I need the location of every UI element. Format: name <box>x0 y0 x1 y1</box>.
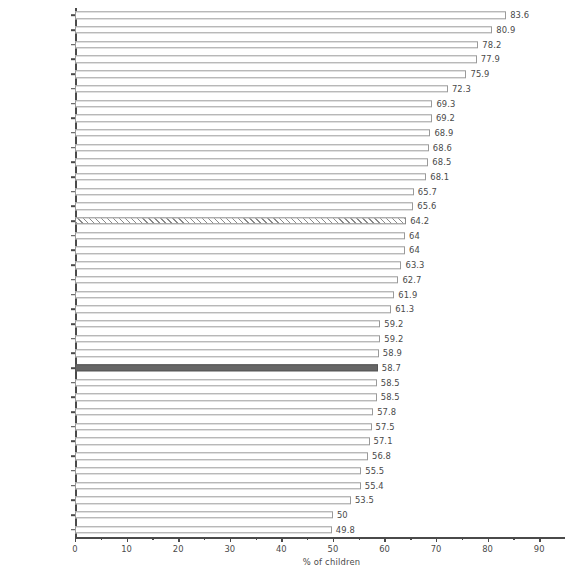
chart-row: Estonia57.1 <box>75 434 565 449</box>
x-axis-minor-tick <box>462 537 463 540</box>
value-label: 55.5 <box>365 466 384 476</box>
value-label: 83.6 <box>510 10 529 20</box>
x-axis-tick-label: 90 <box>534 544 545 554</box>
value-label: 56.8 <box>372 451 391 461</box>
value-label: 80.9 <box>496 25 515 35</box>
chart-row: Switzerland63.3 <box>75 258 565 273</box>
value-label: 78.2 <box>482 40 501 50</box>
value-label: 58.5 <box>381 392 400 402</box>
value-label: 64 <box>409 231 420 241</box>
chart-row: Greenland68.1 <box>75 170 565 185</box>
chart-row: Macedonia80.9 <box>75 23 565 38</box>
chart-row: Ukraine68.9 <box>75 126 565 141</box>
value-label: 69.3 <box>436 99 455 109</box>
bar <box>75 188 414 195</box>
value-label: 75.9 <box>470 69 489 79</box>
x-axis-minor-tick <box>513 537 514 540</box>
bar <box>75 115 432 122</box>
bar <box>75 232 405 239</box>
x-axis-tick-label: 0 <box>72 544 77 554</box>
bar <box>75 70 466 77</box>
bar <box>75 394 377 401</box>
bar <box>75 173 426 180</box>
chart-row: France68.5 <box>75 155 565 170</box>
bar <box>75 306 391 313</box>
value-label: 58.7 <box>382 363 401 373</box>
chart-row: Greece57.8 <box>75 405 565 420</box>
bar <box>75 26 492 33</box>
chart-row: Austria58.5 <box>75 390 565 405</box>
x-axis-tick <box>281 537 282 542</box>
value-label: 63.3 <box>405 260 424 270</box>
chart-row: Canada58.5 <box>75 375 565 390</box>
chart-row: Scotland64 <box>75 228 565 243</box>
x-axis-tick-label: 60 <box>379 544 390 554</box>
bar <box>75 408 373 415</box>
chart-row: England64 <box>75 243 565 258</box>
chart-row: Russia68.6 <box>75 140 565 155</box>
bar <box>75 497 351 504</box>
x-axis-tick-label: 20 <box>173 544 184 554</box>
bar <box>75 423 372 430</box>
value-label: 57.1 <box>374 436 393 446</box>
value-label: 68.1 <box>430 172 449 182</box>
chart-row: Israel69.2 <box>75 111 565 126</box>
x-axis-minor-tick <box>204 537 205 540</box>
chart-row: Netherlands78.2 <box>75 37 565 52</box>
chart-row: Malta50 <box>75 508 565 523</box>
bar <box>75 56 477 63</box>
chart-row: Portugal62.7 <box>75 273 565 288</box>
value-label: 61.3 <box>395 304 414 314</box>
chart-row: Hungary75.9 <box>75 67 565 82</box>
bar <box>75 85 448 92</box>
value-label: 59.2 <box>384 319 403 329</box>
bar <box>75 320 380 327</box>
x-axis-minor-tick <box>410 537 411 540</box>
chart-row: Wales59.2 <box>75 317 565 332</box>
value-label: 53.5 <box>355 495 374 505</box>
value-label: 57.8 <box>377 407 396 417</box>
value-label: 65.6 <box>417 201 436 211</box>
bar <box>75 276 398 283</box>
x-axis-tick <box>436 537 437 542</box>
x-axis-tick <box>75 537 76 542</box>
x-axis-line <box>75 537 565 539</box>
value-label: 68.5 <box>432 157 451 167</box>
x-axis-tick-label: 70 <box>431 544 442 554</box>
bar <box>75 247 405 254</box>
bar <box>75 467 361 474</box>
bar <box>75 350 379 357</box>
bar-chart: Slovenia83.6Macedonia80.9Netherlands78.2… <box>0 0 573 573</box>
bar <box>75 291 394 298</box>
x-axis-tick-label: 10 <box>121 544 132 554</box>
x-axis-tick-label: 30 <box>224 544 235 554</box>
value-label: 62.7 <box>402 275 421 285</box>
value-label: 58.9 <box>383 348 402 358</box>
value-label: 64 <box>409 245 420 255</box>
x-axis-tick <box>488 537 489 542</box>
bar <box>75 100 432 107</box>
bar <box>75 452 368 459</box>
x-axis-minor-tick <box>359 537 360 540</box>
chart-row: Sweden72.3 <box>75 81 565 96</box>
value-label: 72.3 <box>452 84 471 94</box>
value-label: 50 <box>337 510 348 520</box>
bar <box>75 438 370 445</box>
chart-row: Croatia69.3 <box>75 96 565 111</box>
value-label: 55.4 <box>365 481 384 491</box>
chart-row: HBSC Average64.2 <box>75 214 565 229</box>
value-label: 59.2 <box>384 334 403 344</box>
chart-row: Lithuania53.5 <box>75 493 565 508</box>
bar <box>75 217 406 224</box>
x-axis-tick <box>127 537 128 542</box>
bar <box>75 41 478 48</box>
x-axis-tick <box>333 537 334 542</box>
x-axis-minor-tick <box>256 537 257 540</box>
bar <box>75 159 428 166</box>
x-axis-tick-label: 50 <box>328 544 339 554</box>
x-axis-tick-label: 40 <box>276 544 287 554</box>
chart-row: Belgium (Flemish)55.5 <box>75 464 565 479</box>
value-label: 69.2 <box>436 113 455 123</box>
x-axis-minor-tick <box>152 537 153 540</box>
value-label: 65.7 <box>418 187 437 197</box>
